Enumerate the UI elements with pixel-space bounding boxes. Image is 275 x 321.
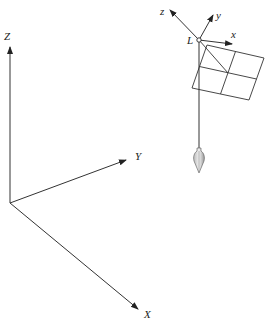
local-frame: L z y x (159, 5, 236, 46)
coordinate-frames-diagram: Z Y X L z y x (0, 0, 275, 321)
local-y-label: y (215, 9, 221, 21)
world-x-axis (10, 203, 138, 309)
world-x-label: X (143, 308, 152, 320)
plumb (194, 40, 205, 173)
world-y-axis (10, 160, 126, 203)
point-l-label: L (186, 34, 193, 46)
point-l-marker (197, 38, 201, 42)
local-z-label: z (159, 5, 165, 17)
local-x-label: x (230, 28, 236, 40)
local-z-axis (170, 10, 199, 40)
local-y-axis (199, 15, 213, 40)
world-axes: Z Y X (4, 30, 152, 320)
world-y-label: Y (135, 150, 143, 162)
world-z-label: Z (4, 30, 11, 42)
local-x-axis (199, 40, 232, 44)
